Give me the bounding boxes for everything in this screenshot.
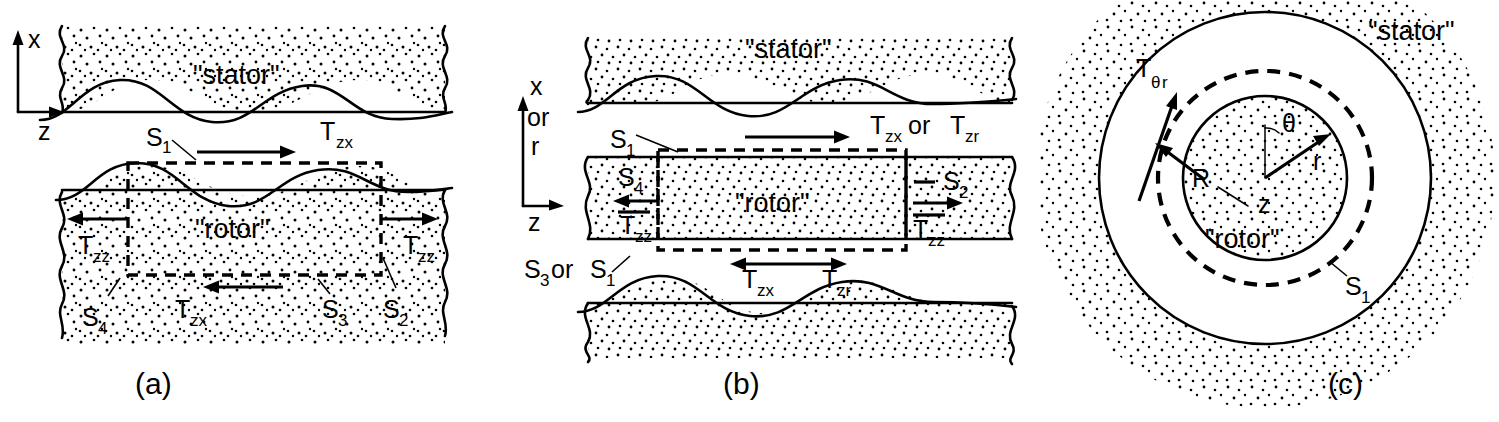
panel-b-tzx-bottom-sub: zx xyxy=(757,281,775,300)
panel-b-s1-sub: 1 xyxy=(626,141,635,160)
panel-b-tzx-top: T xyxy=(870,111,885,139)
panel-b-stator-top: "stator" xyxy=(578,34,1016,116)
panel-a-s2-label: S xyxy=(383,295,400,323)
panel-c: "stator" T θ r R θ r z xyxy=(1040,0,1499,422)
panel-a-s2-sub: 2 xyxy=(399,311,408,330)
panel-a-s1-label: S xyxy=(146,123,163,151)
panel-b-axis-z-label: z xyxy=(528,208,541,236)
panel-a-rotor-label: "rotor" xyxy=(195,214,270,244)
panel-c-ttr-sub-theta: θ xyxy=(1151,73,1160,92)
panel-a-caption: (a) xyxy=(135,367,172,400)
panel-b-s2-sub: 2 xyxy=(959,183,968,202)
panel-c-ttr-label: T xyxy=(1136,54,1151,82)
panel-c-caption: (c) xyxy=(1328,367,1363,400)
panel-b-axis-or-label: or xyxy=(527,103,549,131)
panel-b-s4-label: S xyxy=(618,163,635,191)
panel-a-tzz-right: T xyxy=(403,231,418,259)
panel-a-axis-x-label: x xyxy=(28,25,41,53)
panel-b-tzr-top: T xyxy=(950,111,965,139)
panel-a: x z "stator" xyxy=(13,25,453,400)
panel-b-axes: x or r z xyxy=(518,72,565,236)
panel-b-tzr-top-sub: zr xyxy=(965,127,980,146)
panel-c-rotor-label: "rotor" xyxy=(1205,224,1280,254)
panel-b-caption: (b) xyxy=(723,367,760,400)
panel-c-s1-sub: 1 xyxy=(1361,288,1370,307)
panel-b-tzz-left-sub: zz xyxy=(635,227,652,246)
panel-b-tzz-right: T xyxy=(913,215,928,243)
panel-b: x or r z "stator" "rot xyxy=(518,34,1017,400)
panel-a-s4-sub: 4 xyxy=(98,319,107,338)
panel-b-s3-or: or xyxy=(551,255,573,283)
panel-a-stator-region: "stator" xyxy=(40,26,452,122)
diagram-svg: x z "stator" xyxy=(0,0,1499,422)
panel-a-tzx-bottom: T xyxy=(175,295,190,323)
panel-b-s3-or-s1: S 3 or S 1 xyxy=(524,255,630,290)
panel-b-top-or: or xyxy=(908,111,930,139)
panel-b-s3-label: S xyxy=(524,255,541,283)
panel-c-theta-label: θ xyxy=(1282,109,1296,137)
panel-b-tzz-left: T xyxy=(620,211,635,239)
panel-b-tzx-top-sub: zx xyxy=(885,127,903,146)
panel-b-s3-sub: 3 xyxy=(540,271,549,290)
panel-b-stator-bottom xyxy=(578,276,1016,364)
panel-a-s1: S 1 xyxy=(146,123,196,160)
panel-a-s1-sub: 1 xyxy=(162,138,171,157)
panel-a-stator-right-break xyxy=(443,26,448,113)
panel-b-tzz-right-sub: zz xyxy=(928,231,945,250)
panel-b-axis-x-label: x xyxy=(530,72,543,100)
panel-c-s1-label: S xyxy=(1345,272,1362,300)
panel-a-tzx-bottom-sub: zx xyxy=(190,311,208,330)
panel-b-s1-top: S 1 xyxy=(610,125,678,160)
panel-c-R-label: R xyxy=(1192,164,1210,192)
panel-b-s4-sub: 4 xyxy=(634,179,643,198)
panel-a-axes: x z xyxy=(13,25,65,145)
panel-a-s4-label: S xyxy=(82,303,99,331)
panel-b-s1-lower-label: S xyxy=(590,255,607,283)
panel-c-ttr-sub-r: r xyxy=(1162,73,1168,92)
panel-b-stress-top: T zx or T zr xyxy=(745,111,980,146)
panel-c-r-label: r xyxy=(1313,147,1321,175)
panel-a-s3-label: S xyxy=(322,295,339,323)
panel-a-tzz-right-sub: zz xyxy=(418,247,435,266)
panel-a-s3-sub: 3 xyxy=(338,311,347,330)
panel-b-s2-label: S xyxy=(943,167,960,195)
panel-b-s1-lower-sub: 1 xyxy=(606,271,615,290)
panel-b-stator-label: "stator" xyxy=(745,34,832,64)
panel-a-tzx-top: T xyxy=(320,117,335,145)
panel-b-s1-label: S xyxy=(610,125,627,153)
panel-c-stator-label: "stator" xyxy=(1368,16,1455,46)
panel-b-rotor-label: "rotor" xyxy=(735,188,810,218)
panel-b-tzr-bottom: T xyxy=(822,265,837,293)
panel-b-axis-r-label: r xyxy=(531,132,539,160)
panel-c-z-label: z xyxy=(1258,190,1271,218)
panel-a-tzx-top-sub: zx xyxy=(336,133,354,152)
panel-b-tzx-bottom: T xyxy=(742,265,757,293)
panel-a-stator-label: "stator" xyxy=(193,60,280,90)
panel-a-tzz-left: T xyxy=(78,231,93,259)
figure-root: x z "stator" xyxy=(0,0,1499,422)
panel-a-tzz-left-sub: zz xyxy=(93,247,110,266)
panel-b-tzr-bottom-sub: zr xyxy=(837,281,852,300)
